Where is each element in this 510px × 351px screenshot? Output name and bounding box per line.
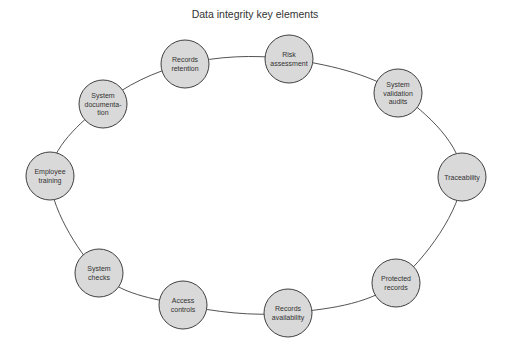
node-label: validation <box>383 90 413 97</box>
node-risk-assessment: Riskassessment <box>265 35 313 83</box>
node-access-controls: Accesscontrols <box>159 281 207 329</box>
node-label: System <box>386 81 410 89</box>
node-protected-records: Protectedrecords <box>372 259 420 307</box>
node-label: records <box>384 284 408 291</box>
node-label: training <box>39 177 62 185</box>
node-label: audits <box>389 98 408 105</box>
diagram-canvas: Data integrity key elements Recordsreten… <box>0 0 510 351</box>
node-label: assessment <box>270 60 307 67</box>
node-label: tion <box>97 109 108 116</box>
node-records-availability: Recordsavailability <box>264 289 312 337</box>
node-label: Risk <box>282 51 296 58</box>
node-system-documentation: Systemdocumenta-tion <box>79 80 127 128</box>
node-employee-training: Employeetraining <box>26 152 74 200</box>
node-label: checks <box>88 274 110 281</box>
node-label: Traceability <box>444 174 480 182</box>
cycle-diagram: RecordsretentionRiskassessmentSystemvali… <box>0 0 510 351</box>
node-label: documenta- <box>85 101 123 108</box>
node-label: availability <box>272 314 305 322</box>
node-label: Records <box>172 56 199 63</box>
node-records-retention: Recordsretention <box>161 40 209 88</box>
node-system-validation-audits: Systemvalidationaudits <box>374 69 422 117</box>
node-label: System <box>87 265 111 273</box>
node-label: Access <box>172 297 195 304</box>
node-label: retention <box>171 65 198 72</box>
node-label: Protected <box>381 275 411 282</box>
node-group: RecordsretentionRiskassessmentSystemvali… <box>26 35 486 337</box>
node-traceability: Traceability <box>438 153 486 201</box>
node-label: controls <box>171 306 196 313</box>
node-system-checks: Systemchecks <box>75 249 123 297</box>
node-label: System <box>91 92 115 100</box>
node-label: Employee <box>34 168 65 176</box>
node-label: Records <box>275 305 302 312</box>
